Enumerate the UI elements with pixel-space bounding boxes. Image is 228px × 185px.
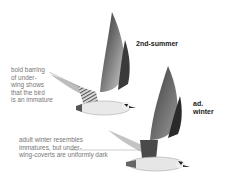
note-line: wing-coverts are uniformly dark: [19, 151, 108, 159]
note-line: that the bird: [11, 89, 53, 97]
note-line: adult winter resembles: [19, 136, 108, 144]
underwing-annotation: bold barring of under- wing shows that t…: [11, 66, 53, 104]
note-line: immatures, but under-: [19, 144, 108, 152]
note-line: is an immature: [11, 96, 53, 104]
leader-line-underwing: [49, 72, 78, 86]
note-line: bold barring: [11, 66, 53, 74]
age-label-line1: ad.: [193, 100, 214, 108]
bird-plate: 2nd-summer ad. winter bold barring of un…: [0, 0, 228, 185]
upper-bird-icon: [50, 12, 136, 115]
adult-annotation: adult winter resembles immatures, but un…: [19, 136, 108, 159]
age-label-2nd-summer: 2nd-summer: [136, 40, 178, 48]
age-label-ad-winter: ad. winter: [193, 100, 214, 116]
note-line: wing shows: [11, 81, 53, 89]
age-label-line2: winter: [193, 108, 214, 116]
note-line: of under-: [11, 74, 53, 82]
